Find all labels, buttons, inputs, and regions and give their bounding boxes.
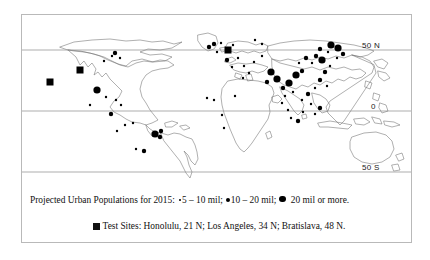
city-marker-small-dot [105, 96, 107, 98]
lat-label-50n: 50 N [362, 41, 380, 50]
city-marker-medium-dot [341, 52, 345, 56]
test-site-marker [225, 47, 232, 54]
city-marker-medium-dot [314, 54, 318, 58]
path-madagascar [266, 131, 272, 139]
city-marker-small-dot [336, 57, 338, 59]
large-dot-icon [279, 196, 285, 202]
path-new-guinea [384, 121, 400, 127]
lat-label-50s: 50 S [362, 163, 380, 172]
city-marker-medium-dot [281, 86, 285, 90]
city-marker-small-dot [326, 85, 328, 87]
city-marker-small-dot [302, 111, 304, 113]
city-marker-small-dot [206, 97, 208, 99]
city-marker-small-dot [242, 77, 244, 79]
city-marker-medium-dot [306, 92, 310, 96]
path-south-america [161, 133, 198, 178]
legend-medium-label: 10 – 20 mil; [231, 195, 277, 205]
city-marker-small-dot [290, 117, 292, 119]
city-marker-small-dot [287, 109, 289, 111]
city-marker-large-dot [273, 75, 280, 82]
city-marker-small-dot [115, 99, 117, 101]
city-marker-medium-dot [159, 129, 163, 133]
medium-dot-icon [226, 198, 230, 202]
city-marker-medium-dot [318, 78, 322, 82]
path-scandinavia [226, 41, 268, 53]
city-marker-medium-dot [109, 112, 113, 116]
city-marker-small-dot [103, 60, 105, 62]
city-marker-small-dot [281, 102, 283, 104]
city-marker-small-dot [310, 103, 312, 105]
path-japan-south [378, 71, 390, 81]
path-philippines [379, 103, 388, 113]
city-marker-medium-dot [318, 106, 322, 110]
city-marker-small-dot [213, 99, 215, 101]
city-marker-small-dot [261, 43, 263, 45]
path-east-asia [326, 55, 376, 125]
legend-size-key: Projected Urban Populations for 2015:5 –… [30, 192, 408, 208]
city-marker-small-dot [284, 95, 286, 97]
city-marker-small-dot [298, 62, 300, 64]
city-marker-large-dot [285, 79, 292, 86]
legend-test-sites-label: Test Sites: Honolulu, 21 N; Los Angeles,… [103, 221, 346, 231]
city-marker-medium-dot [296, 119, 300, 123]
path-australia [350, 132, 394, 164]
city-marker-medium-dot [158, 135, 162, 139]
city-marker-small-dot [220, 42, 222, 44]
path-japan-north [374, 59, 388, 69]
city-markers [47, 39, 346, 153]
city-marker-small-dot [132, 122, 134, 124]
city-marker-medium-dot [304, 56, 308, 60]
figure-root: 50 N 0 50 S Projected Urban Populations … [0, 0, 430, 260]
path-borneo [354, 118, 370, 125]
path-new-zealand-north [396, 153, 404, 161]
city-marker-medium-dot [318, 47, 322, 51]
path-iberia [235, 73, 242, 79]
city-marker-small-dot [232, 44, 234, 46]
path-sri-lanka [302, 114, 307, 119]
city-marker-small-dot [301, 99, 303, 101]
city-marker-small-dot [327, 51, 329, 53]
city-marker-small-dot [253, 61, 255, 63]
legend-large-label: 20 mil or more. [291, 195, 349, 205]
city-marker-large-dot [292, 71, 299, 78]
lat-label-equator: 0 [371, 102, 376, 111]
filled-square-icon [93, 223, 100, 230]
city-marker-small-dot [314, 87, 316, 89]
city-marker-medium-dot [300, 69, 304, 73]
city-marker-small-dot [248, 72, 250, 74]
city-marker-small-dot [223, 127, 225, 129]
city-marker-small-dot [120, 104, 122, 106]
city-marker-small-dot [314, 113, 316, 115]
city-marker-small-dot [243, 65, 245, 67]
city-marker-small-dot [111, 55, 113, 57]
city-marker-medium-dot [323, 70, 327, 74]
city-marker-small-dot [254, 39, 256, 41]
city-marker-medium-dot [207, 45, 211, 49]
path-new-zealand-south [392, 164, 400, 171]
path-north-america [68, 50, 174, 125]
city-marker-medium-dot [113, 51, 117, 55]
city-marker-medium-dot [265, 80, 269, 84]
city-marker-small-dot [234, 95, 236, 97]
city-marker-small-dot [135, 148, 137, 150]
city-marker-large-dot [151, 130, 158, 137]
test-site-marker [77, 67, 84, 74]
path-west-europe [230, 63, 268, 73]
path-hispaniola [180, 125, 190, 130]
city-marker-small-dot [231, 66, 233, 68]
city-marker-medium-dot [225, 58, 229, 62]
city-marker-small-dot [116, 130, 118, 132]
small-dot-icon [179, 199, 181, 201]
city-marker-small-dot [124, 124, 126, 126]
world-map: 50 N 0 50 S [22, 15, 411, 185]
city-marker-small-dot [119, 57, 121, 59]
city-marker-large-dot [267, 68, 274, 75]
legend-test-sites: Test Sites: Honolulu, 21 N; Los Angeles,… [30, 218, 408, 234]
city-marker-small-dot [292, 91, 294, 93]
city-marker-small-dot [237, 57, 239, 59]
city-marker-medium-dot [142, 149, 146, 153]
test-site-marker [47, 79, 54, 86]
city-marker-small-dot [221, 114, 223, 116]
path-indochina [312, 93, 330, 113]
legend-small-label: 5 – 10 mil; [182, 195, 223, 205]
